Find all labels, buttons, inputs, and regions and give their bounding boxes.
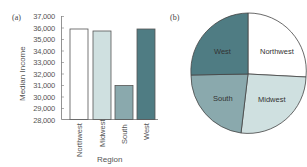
pie-slice-northwest (248, 13, 306, 77)
pie-label-west: West (214, 47, 232, 56)
pie-slice-west (191, 13, 248, 75)
pie-label-northwest: Northwest (260, 47, 295, 56)
pie-label-south: South (213, 94, 233, 103)
pie-slice-south (191, 74, 248, 133)
pie-label-midwest: Midwest (258, 95, 286, 104)
pie-chart: West Northwest South Midwest (0, 0, 307, 167)
